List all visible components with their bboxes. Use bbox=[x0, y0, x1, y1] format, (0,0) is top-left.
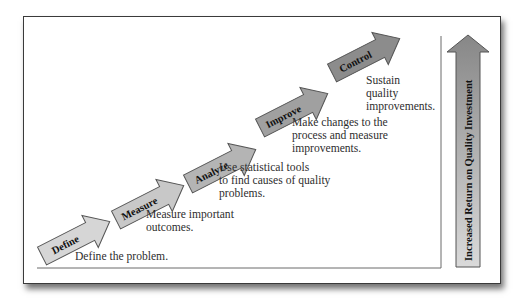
step-description-measure: Measure important outcomes. bbox=[146, 208, 234, 234]
desc-line: Define the problem. bbox=[75, 250, 168, 263]
step-description-improve: Make changes to the process and measure … bbox=[292, 116, 388, 155]
step-description-define: Define the problem. bbox=[75, 250, 168, 263]
desc-line: problems. bbox=[219, 187, 330, 200]
desc-line: quality bbox=[366, 87, 435, 100]
desc-line: Use statistical tools bbox=[219, 161, 330, 174]
vertical-return-arrow: Increased Return on Quality Investment bbox=[447, 35, 489, 267]
desc-line: outcomes. bbox=[146, 221, 234, 234]
desc-line: to find causes of quality bbox=[219, 174, 330, 187]
desc-line: improvements. bbox=[366, 100, 435, 113]
vertical-arrow-label: Increased Return on Quality Investment bbox=[463, 79, 474, 261]
desc-line: Sustain bbox=[366, 74, 435, 87]
step-description-control: Sustain quality improvements. bbox=[366, 74, 435, 113]
desc-line: Make changes to the bbox=[292, 116, 388, 129]
desc-line: improvements. bbox=[292, 142, 388, 155]
desc-line: process and measure bbox=[292, 129, 388, 142]
step-description-analyze: Use statistical tools to find causes of … bbox=[219, 161, 330, 200]
desc-line: Measure important bbox=[146, 208, 234, 221]
